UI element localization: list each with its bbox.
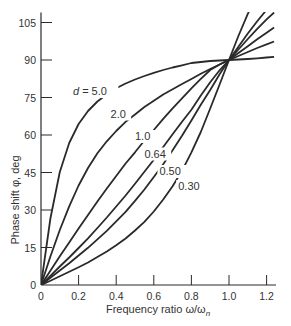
x-tick-label: 0 <box>38 290 44 302</box>
phase-curve <box>41 0 274 285</box>
y-tick-label: 0 <box>30 279 36 291</box>
curve-label: 2.0 <box>111 108 126 120</box>
curve-labels: d = 5.02.01.00.640.500.30 <box>71 85 205 193</box>
x-tick-label: 0.6 <box>146 290 161 302</box>
curve-label: 0.64 <box>144 148 165 160</box>
y-tick-label: 60 <box>24 129 36 141</box>
y-axis-label: Phase shift φ, deg <box>9 155 21 244</box>
x-tick-label: 0.4 <box>109 290 124 302</box>
y-tick-label: 105 <box>18 17 36 29</box>
x-axis-label: Frequency ratio ω/ωn <box>106 303 211 318</box>
y-tick-label: 15 <box>24 242 36 254</box>
y-tick-label: 90 <box>24 54 36 66</box>
curve-label: 1.0 <box>135 130 150 142</box>
y-tick-label: 75 <box>24 92 36 104</box>
y-tick-label: 45 <box>24 167 36 179</box>
x-tick-label: 1.0 <box>222 290 237 302</box>
x-tick-label: 0.2 <box>71 290 86 302</box>
curve-label: 0.30 <box>178 180 199 192</box>
phase-curve <box>41 42 274 286</box>
curve-label: 0.50 <box>159 165 180 177</box>
phase-curve <box>41 1 274 285</box>
x-axis-label-main: Frequency ratio ω/ω <box>106 303 206 315</box>
x-tick-label: 1.2 <box>259 290 274 302</box>
x-tick-label: 0.8 <box>184 290 199 302</box>
curves <box>41 0 274 285</box>
curve-label: d = 5.0 <box>73 85 107 97</box>
x-axis-label-sub: n <box>206 309 211 318</box>
y-tick-label: 30 <box>24 204 36 216</box>
phase-shift-chart: 015304560759010500.20.40.60.81.01.2 d = … <box>0 0 291 326</box>
